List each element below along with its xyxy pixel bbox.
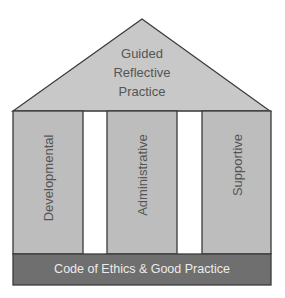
roof-label-line: Guided <box>92 44 192 63</box>
roof-label-line: Reflective <box>92 63 192 82</box>
base-label: Code of Ethics & Good Practice <box>13 254 271 285</box>
pillar-label-administrative: Administrative <box>135 134 150 216</box>
roof-label-line: Practice <box>92 82 192 101</box>
roof-label: Guided Reflective Practice <box>92 44 192 101</box>
pillar-label-supportive: Supportive <box>230 134 245 196</box>
pillar-label-developmental: Developmental <box>41 135 56 222</box>
